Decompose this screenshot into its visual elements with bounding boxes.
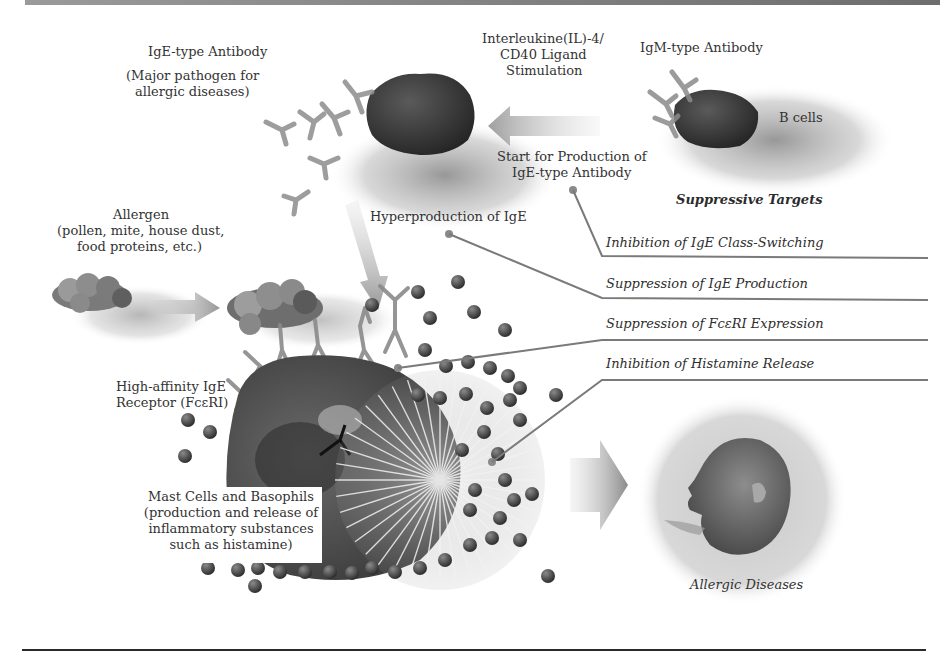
ige-antibody-note-1: (Major pathogen for: [126, 68, 259, 84]
target-fceri-expression: Suppression of FcεRI Expression: [606, 316, 824, 331]
mast-cells-caption: Mast Cells and Basophils (production and…: [140, 487, 322, 563]
ige-antibody-label: IgE-type Antibody: [148, 44, 267, 60]
b-cells-label: B cells: [779, 110, 823, 126]
target-histamine-release: Inhibition of Histamine Release: [606, 356, 814, 371]
target-ige-class-switching: Inhibition of IgE Class-Switching: [606, 235, 824, 250]
start-production-line-1: Start for Production of: [497, 149, 647, 165]
start-production-line-2: IgE-type Antibody: [512, 165, 631, 181]
suppressive-targets-heading: Suppressive Targets: [676, 192, 822, 207]
allergen-examples-2: food proteins, etc.): [77, 239, 202, 255]
il4-line-2: CD40 Ligand: [500, 47, 587, 63]
allergen-label: Allergen: [113, 207, 169, 223]
il4-line-3: Stimulation: [506, 63, 582, 79]
bottom-rule: [22, 649, 926, 651]
target-ige-production: Suppression of IgE Production: [606, 276, 808, 291]
hyperproduction-label: Hyperproduction of IgE: [370, 209, 527, 225]
receptor-label-1: High-affinity IgE: [116, 379, 226, 395]
igm-antibody-label: IgM-type Antibody: [640, 40, 763, 56]
receptor-label-2: Receptor (FcεRI): [116, 395, 228, 411]
mast-cells-line-3: inflammatory substances: [140, 521, 322, 537]
allergic-diseases-label: Allergic Diseases: [690, 577, 803, 593]
il4-line-1: Interleukine(IL)-4/: [482, 31, 604, 47]
mast-cells-line-1: Mast Cells and Basophils: [140, 489, 322, 505]
allergen-examples-1: (pollen, mite, house dust,: [57, 223, 224, 239]
ige-antibody-note-2: allergic diseases): [135, 84, 250, 100]
mast-cells-line-4: such as histamine): [140, 537, 322, 553]
mast-cells-line-2: (production and release of: [140, 505, 322, 521]
